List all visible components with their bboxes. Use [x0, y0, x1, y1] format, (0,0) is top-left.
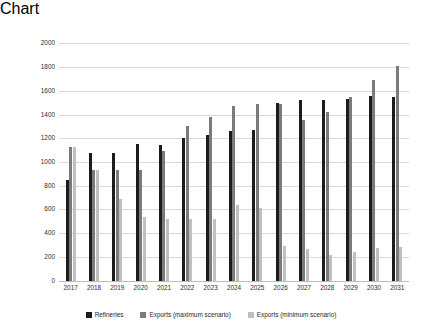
bar-chart: Thousands of Barrels Per Day 02004006008…: [0, 18, 422, 320]
bar: [92, 170, 95, 281]
bar: [276, 103, 279, 281]
x-tick-label: 2026: [269, 283, 292, 293]
bar-group: [246, 43, 269, 280]
bar: [346, 99, 349, 281]
bar: [252, 130, 255, 281]
bar: [73, 147, 76, 281]
bar: [143, 217, 146, 281]
bar: [353, 252, 356, 280]
bar: [256, 104, 259, 281]
y-tick-label: 1200: [9, 134, 55, 142]
bar: [399, 247, 402, 280]
legend-label: Exports (minimum scenario): [257, 311, 337, 319]
bar: [302, 120, 305, 280]
y-tick-label: 800: [9, 182, 55, 190]
legend-label: Refineries: [95, 311, 124, 319]
bar: [96, 170, 99, 281]
bar: [112, 153, 115, 281]
bar-group: [199, 43, 222, 280]
bar-group: [386, 43, 409, 280]
bar: [182, 138, 185, 280]
bar-group: [176, 43, 199, 280]
bar: [306, 249, 309, 281]
y-tick-label: 400: [9, 229, 55, 237]
gridline: [59, 281, 409, 282]
bar: [66, 180, 69, 281]
bar: [206, 135, 209, 281]
bar: [213, 219, 216, 281]
x-tick-label: 2022: [176, 283, 199, 293]
bar: [162, 151, 165, 280]
bar: [186, 126, 189, 280]
bar: [69, 147, 72, 281]
x-tick-label: 2017: [59, 283, 82, 293]
legend-swatch-icon: [248, 312, 254, 318]
bar-group: [222, 43, 245, 280]
bar-group: [152, 43, 175, 280]
bar: [279, 104, 282, 281]
bar: [189, 219, 192, 281]
bar-group: [316, 43, 339, 280]
y-tick-label: 1800: [9, 63, 55, 71]
bar-group: [129, 43, 152, 280]
bar: [209, 117, 212, 280]
bar-group: [269, 43, 292, 280]
bar-group: [106, 43, 129, 280]
legend-label: Exports (maximum scenario): [149, 311, 230, 319]
bar: [349, 97, 352, 280]
x-tick-label: 2027: [292, 283, 315, 293]
x-tick-label: 2031: [386, 283, 409, 293]
bar-group: [59, 43, 82, 280]
bars-layer: [59, 43, 409, 280]
bar: [232, 106, 235, 281]
y-tick-label: 1600: [9, 87, 55, 95]
legend-item[interactable]: Refineries: [86, 311, 124, 319]
y-tick-label: 200: [9, 253, 55, 261]
bar: [376, 248, 379, 281]
bar-group: [362, 43, 385, 280]
bar: [236, 205, 239, 280]
legend-item[interactable]: Exports (minimum scenario): [248, 311, 337, 319]
legend-item[interactable]: Exports (maximum scenario): [140, 311, 230, 319]
bar: [326, 112, 329, 281]
bar: [299, 100, 302, 280]
x-tick-label: 2025: [246, 283, 269, 293]
bar-group: [292, 43, 315, 280]
y-tick-label: 0: [9, 277, 55, 285]
bar: [372, 80, 375, 281]
bar: [322, 100, 325, 280]
bar: [396, 66, 399, 280]
y-tick-label: 1000: [9, 158, 55, 166]
bar-group: [339, 43, 362, 280]
y-tick-label: 600: [9, 205, 55, 213]
y-axis-tick-labels: 0200400600800100012001400160018002000: [0, 43, 55, 280]
x-tick-label: 2020: [129, 283, 152, 293]
y-tick-label: 1400: [9, 111, 55, 119]
bar: [166, 219, 169, 281]
x-tick-label: 2030: [362, 283, 385, 293]
bar: [136, 144, 139, 281]
legend-swatch-icon: [140, 312, 146, 318]
bar: [329, 255, 332, 281]
x-tick-label: 2023: [199, 283, 222, 293]
x-tick-label: 2028: [316, 283, 339, 293]
x-tick-label: 2018: [82, 283, 105, 293]
x-tick-label: 2019: [106, 283, 129, 293]
bar: [89, 153, 92, 281]
legend-swatch-icon: [86, 312, 92, 318]
x-tick-label: 2021: [152, 283, 175, 293]
bar: [159, 145, 162, 280]
bar: [139, 170, 142, 281]
bar: [259, 208, 262, 280]
bar: [119, 199, 122, 280]
x-tick-label: 2029: [339, 283, 362, 293]
bar: [116, 170, 119, 281]
x-axis-tick-labels: 2017201820192020202120222023202420252026…: [59, 283, 409, 295]
bar: [392, 97, 395, 281]
bar-group: [82, 43, 105, 280]
bar: [229, 131, 232, 281]
x-tick-label: 2024: [222, 283, 245, 293]
bar: [283, 246, 286, 280]
chart-legend: RefineriesExports (maximum scenario)Expo…: [0, 311, 422, 319]
bar: [369, 96, 372, 281]
